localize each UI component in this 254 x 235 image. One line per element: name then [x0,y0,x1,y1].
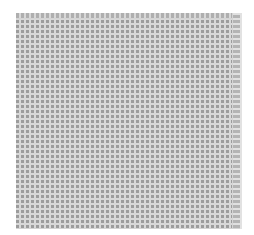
right-edge-column [233,13,240,228]
cell-grid[interactable] [16,19,232,228]
column-header-row [16,13,232,18]
cell-grid-frame [16,13,242,229]
